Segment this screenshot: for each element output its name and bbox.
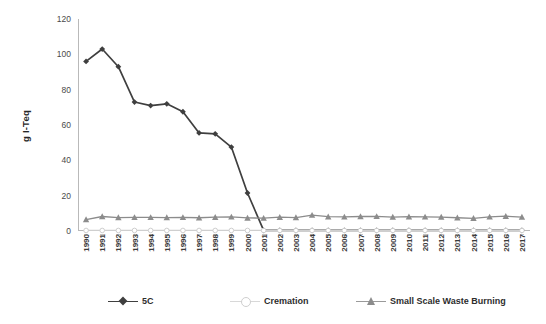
x-tick-label: 2008 (372, 234, 381, 252)
data-point-2011 (423, 228, 428, 233)
data-point-1994 (148, 228, 153, 233)
legend-swatch-waste-burning (356, 295, 386, 307)
data-point-2005 (326, 228, 331, 233)
y-tick-label-4: 80 (62, 85, 71, 95)
x-tick-label: 2012 (437, 234, 446, 252)
data-point-1996 (181, 228, 186, 233)
x-tick-label: 1992 (114, 234, 123, 252)
legend-swatch-5c (108, 295, 138, 307)
data-point-2001 (261, 228, 266, 233)
series-small-scale-waste-burning (83, 212, 525, 222)
data-point-2013 (455, 228, 460, 233)
y-axis-title: g I-Teq (20, 110, 31, 142)
data-point-1993 (132, 228, 137, 233)
data-point-2016 (503, 228, 508, 233)
x-tick-label: 1990 (82, 234, 91, 252)
y-tick-label-3: 60 (62, 120, 71, 130)
data-point-2012 (439, 228, 444, 233)
data-point-2002 (277, 228, 282, 233)
x-tick-label: 2015 (485, 234, 494, 252)
data-point-2007 (358, 228, 363, 233)
data-point-1994 (148, 103, 154, 109)
circle-marker-icon (241, 297, 251, 307)
x-tick-label: 2002 (275, 234, 284, 252)
data-point-1997 (197, 228, 202, 233)
x-tick-label: 1998 (211, 234, 220, 252)
series-line (86, 49, 522, 230)
x-tick-label: 1993 (130, 234, 139, 252)
data-point-1991 (100, 228, 105, 233)
data-point-2017 (520, 228, 525, 233)
y-tick-label-0: 0 (66, 226, 71, 236)
y-tick-label-6: 120 (57, 14, 71, 24)
plot-area: 020406080100120 (78, 19, 530, 231)
x-tick-label: 2006 (340, 234, 349, 252)
y-tick-label-2: 40 (62, 155, 71, 165)
x-tick-label: 2007 (356, 234, 365, 252)
legend-item-5c[interactable]: 5C (108, 292, 154, 310)
x-tick-label: 1991 (98, 234, 107, 252)
diamond-marker-icon (119, 297, 128, 306)
data-point-2008 (374, 228, 379, 233)
x-tick-label: 2017 (517, 234, 526, 252)
data-point-1990 (84, 228, 89, 233)
data-point-1995 (164, 101, 170, 107)
x-tick-label: 2010 (404, 234, 413, 252)
data-point-2010 (407, 228, 412, 233)
chart-legend: 5C Cremation Small Scale Waste Burning (78, 292, 508, 312)
y-axis-title-container: g I-Teq (14, 86, 36, 166)
x-tick-label: 2014 (469, 234, 478, 252)
x-tick-label: 2003 (291, 234, 300, 252)
legend-item-cremation[interactable]: Cremation (230, 292, 309, 310)
x-tick-label: 2005 (324, 234, 333, 252)
legend-label-cremation: Cremation (264, 296, 309, 306)
series-layer (78, 19, 530, 231)
triangle-marker-icon (367, 297, 375, 305)
data-point-1995 (164, 228, 169, 233)
x-tick-label: 1995 (162, 234, 171, 252)
x-tick-label: 2011 (421, 234, 430, 251)
legend-label-waste-burning: Small Scale Waste Burning (390, 296, 506, 306)
series-5c (83, 46, 525, 233)
data-point-2000 (245, 190, 251, 196)
x-tick-label: 2001 (259, 234, 268, 252)
data-point-2009 (390, 228, 395, 233)
x-tick-label: 2004 (308, 234, 317, 252)
data-point-2004 (310, 228, 315, 233)
x-tick-label: 1996 (178, 234, 187, 252)
data-point-1992 (116, 228, 121, 233)
x-tick-label: 2009 (388, 234, 397, 252)
x-tick-label: 2016 (501, 234, 510, 252)
data-point-1993 (132, 99, 138, 105)
legend-swatch-cremation (230, 295, 260, 307)
chart-figure: g I-Teq 020406080100120 1990199119921993… (0, 0, 546, 324)
series-cremation (84, 228, 524, 233)
x-tick-label: 1997 (195, 234, 204, 252)
legend-label-5c: 5C (142, 296, 154, 306)
data-point-2006 (342, 228, 347, 233)
x-tick-label: 2013 (453, 234, 462, 252)
y-tick-label-1: 20 (62, 191, 71, 201)
x-tick-label: 1994 (146, 234, 155, 252)
y-tick-label-5: 100 (57, 49, 71, 59)
data-point-1998 (213, 228, 218, 233)
legend-item-small-scale-waste-burning[interactable]: Small Scale Waste Burning (356, 292, 506, 310)
data-point-2015 (487, 228, 492, 233)
x-tick-label: 2000 (243, 234, 252, 252)
data-point-2003 (294, 228, 299, 233)
x-axis-tick-labels: 1990199119921993199419951996199719981999… (78, 234, 530, 278)
data-point-2014 (471, 228, 476, 233)
data-point-2000 (245, 228, 250, 233)
data-point-1999 (229, 228, 234, 233)
x-tick-label: 1999 (227, 234, 236, 252)
